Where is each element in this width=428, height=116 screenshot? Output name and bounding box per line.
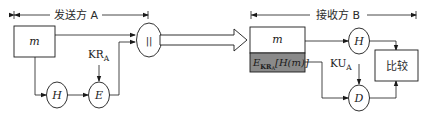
sender-encrypt-label: E: [94, 89, 103, 102]
receiver-message-label: m: [272, 33, 282, 46]
transmission-arrow: [160, 29, 247, 51]
receiver-decrypt-label: D: [354, 92, 364, 105]
sender-span: 发送方 A: [14, 8, 148, 22]
concat-label: ||: [146, 35, 153, 47]
compare-label: 比较: [386, 59, 408, 73]
receiver-key-label: KUA: [330, 57, 352, 72]
signature-diagram: 发送方 A m H E KRA || 接收方 B m EKRA[H(m)] H: [0, 0, 428, 116]
receiver-span: 接收方 B: [251, 8, 416, 22]
sender-message-label: m: [29, 35, 39, 48]
sender-hash-label: H: [51, 89, 62, 102]
sender-label: 发送方 A: [54, 8, 98, 22]
receiver-hash-label: H: [353, 35, 364, 48]
receiver-label: 接收方 B: [316, 8, 360, 22]
sender-key-label: KRA: [88, 48, 110, 63]
